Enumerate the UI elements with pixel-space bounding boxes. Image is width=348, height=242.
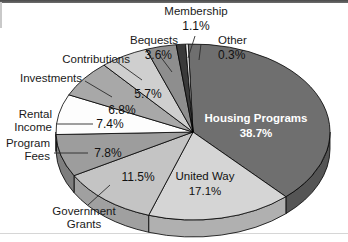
pie-chart-figure: Membership 1.1% Other 0.3% Bequests 3.6%… — [0, 0, 348, 242]
label-contributions-pct: 5.7% — [134, 87, 162, 101]
label-rental-income-pct: 7.4% — [96, 117, 124, 131]
label-rental-income-line1: Rental — [19, 108, 52, 120]
label-program-fees-pct: 7.8% — [94, 146, 122, 160]
label-housing-programs-pct: 38.7% — [240, 127, 273, 139]
label-housing-programs-name: Housing Programs — [205, 112, 308, 124]
label-membership-name: Membership — [164, 5, 227, 17]
label-government-grants-line2: Grants — [67, 218, 102, 230]
label-government-grants-pct: 11.5% — [121, 170, 154, 184]
label-rental-income-line2: Income — [14, 121, 52, 133]
label-membership-pct: 1.1% — [182, 19, 210, 33]
label-program-fees-line1: Program — [6, 137, 50, 149]
label-united-way-name: United Way — [175, 170, 234, 182]
label-united-way-pct: 17.1% — [189, 185, 222, 197]
label-investments-pct: 6.8% — [108, 103, 136, 117]
pie-chart-svg: Membership 1.1% Other 0.3% Bequests 3.6%… — [0, 0, 348, 242]
label-contributions-name: Contributions — [62, 53, 130, 65]
label-program-fees-line2: Fees — [24, 150, 50, 162]
label-other-name: Other — [218, 34, 247, 46]
label-other-pct: 0.3% — [218, 48, 246, 62]
label-investments-name: Investments — [20, 72, 82, 84]
label-government-grants-line1: Government — [52, 205, 116, 217]
label-bequests-name: Bequests — [130, 34, 178, 46]
label-bequests-pct: 3.6% — [145, 48, 173, 62]
